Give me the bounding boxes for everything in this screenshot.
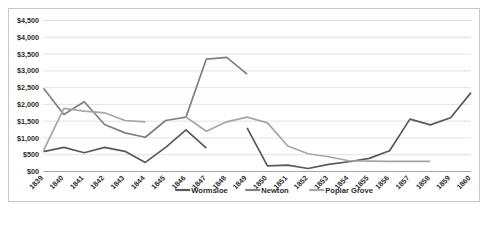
legend-label-newton: Newton [261,186,289,195]
chart-container: $00$500$1,000$1,500$2,000$2,500$3,000$3,… [8,8,480,202]
y-tick-label: $3,000 [17,66,39,75]
legend-label-wormsloe: Wormsloe [191,186,228,195]
x-tick-label: 1840 [48,174,66,192]
x-tick-label: 1839 [27,174,45,192]
y-axis-tick-labels: $00$500$1,000$1,500$2,000$2,500$3,000$3,… [17,16,39,176]
x-tick-label: 1843 [109,174,127,192]
y-tick-label: $3,500 [17,50,39,59]
series-line-poplar-grove [44,108,431,161]
x-tick-label: 1858 [414,174,432,192]
x-tick-label: 1852 [292,174,310,192]
x-tick-label: 1842 [88,174,106,192]
x-axis-tick-labels: 1839184018411842184318441845184618471848… [27,174,472,192]
y-tick-label: $4,000 [17,33,39,42]
series-line-newton [44,57,248,137]
x-tick-label: 1841 [68,174,86,192]
y-tick-label: $1,500 [17,117,39,126]
x-tick-label: 1846 [170,174,188,192]
y-tick-label: $2,000 [17,100,39,109]
chart-legend: WormsloeNewtonPoplar Grove [175,186,373,195]
x-tick-label: 1844 [129,174,147,192]
gridlines-group [44,21,472,172]
x-tick-label: 1856 [373,174,391,192]
x-tick-label: 1859 [434,174,452,192]
x-tick-label: 1845 [149,174,167,192]
x-tick-label: 1857 [394,174,412,192]
x-tick-label: 1849 [231,174,249,192]
data-series-group [44,57,472,168]
line-chart: $00$500$1,000$1,500$2,000$2,500$3,000$3,… [9,9,481,203]
y-tick-label: $1,000 [17,134,39,143]
y-tick-label: $4,500 [17,16,39,25]
y-tick-label: $500 [23,150,39,159]
y-tick-label: $2,500 [17,83,39,92]
legend-label-poplar-grove: Poplar Grove [325,186,373,195]
x-tick-label: 1860 [455,174,473,192]
